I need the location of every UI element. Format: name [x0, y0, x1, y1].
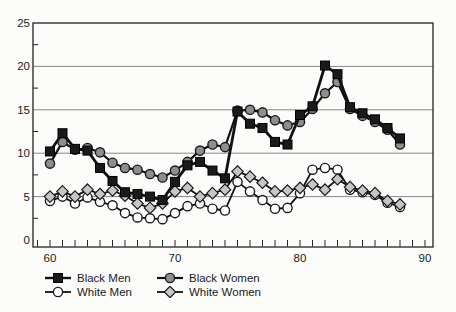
y-tick-label: 10 [17, 147, 30, 159]
data-point-white-women [282, 185, 293, 196]
data-point-white-men [233, 177, 242, 186]
data-point-white-men [183, 202, 192, 211]
data-point-white-women [144, 202, 155, 213]
data-point-white-men [145, 214, 154, 223]
data-point-white-women [82, 184, 93, 195]
data-point-black-men [133, 189, 142, 198]
x-tick-label: 70 [169, 252, 182, 264]
data-point-black-men [321, 61, 330, 70]
data-point-white-men [158, 215, 167, 224]
data-point-black-women [245, 105, 254, 114]
y-tick-label: 15 [17, 104, 30, 116]
unemployment-rate-line-chart: 051015202560708090 [0, 0, 456, 312]
data-point-black-men [396, 134, 405, 143]
data-point-black-men [221, 174, 230, 183]
data-point-white-women [232, 166, 243, 177]
data-point-black-women [170, 166, 179, 175]
x-tick-label: 60 [44, 252, 57, 264]
data-point-black-men [333, 70, 342, 79]
data-point-white-women [94, 188, 105, 199]
data-point-black-men [183, 161, 192, 170]
data-point-white-men [283, 203, 292, 212]
data-point-black-women [195, 146, 204, 155]
data-point-white-men [220, 206, 229, 215]
data-point-white-women [219, 184, 230, 195]
data-point-black-men [158, 196, 167, 205]
data-point-black-women [108, 158, 117, 167]
y-tick-label: 20 [17, 60, 30, 72]
data-point-black-women [158, 173, 167, 182]
data-point-white-men [320, 163, 329, 172]
data-point-black-men [171, 177, 180, 186]
data-point-black-women [208, 140, 217, 149]
y-tick-label: 0 [24, 234, 30, 246]
data-point-black-women [133, 165, 142, 174]
data-point-black-men [108, 176, 117, 185]
data-point-white-women [182, 182, 193, 193]
chart-figure: 051015202560708090 Black Men Black Women… [0, 0, 456, 312]
data-point-black-men [308, 102, 317, 111]
data-point-white-women [257, 177, 268, 188]
data-point-black-men [96, 163, 105, 172]
data-point-white-women [307, 179, 318, 190]
data-point-black-women [145, 169, 154, 178]
data-point-black-women [283, 121, 292, 130]
data-point-black-men [283, 140, 292, 149]
data-point-black-men [83, 146, 92, 155]
data-point-white-men [245, 187, 254, 196]
data-point-black-men [346, 103, 355, 112]
data-point-black-men [58, 129, 67, 138]
data-point-black-men [271, 137, 280, 146]
data-point-white-women [107, 185, 118, 196]
data-point-white-men [308, 165, 317, 174]
data-point-white-men [120, 208, 129, 217]
data-point-white-men [133, 213, 142, 222]
data-point-white-women [269, 186, 280, 197]
y-tick-label: 5 [24, 191, 30, 203]
data-point-white-women [132, 198, 143, 209]
x-tick-label: 90 [419, 252, 432, 264]
data-point-black-men [233, 107, 242, 116]
data-point-black-men [121, 188, 130, 197]
data-point-white-women [207, 187, 218, 198]
data-point-black-men [246, 119, 255, 128]
data-point-black-women [258, 108, 267, 117]
data-point-white-men [208, 204, 217, 213]
data-point-white-women [244, 171, 255, 182]
data-point-black-men [383, 124, 392, 133]
data-point-black-women [120, 163, 129, 172]
data-point-black-men [196, 157, 205, 166]
data-point-black-women [220, 143, 229, 152]
data-point-white-men [170, 208, 179, 217]
data-point-black-men [296, 111, 305, 120]
data-point-black-men [46, 147, 55, 156]
data-point-black-women [95, 148, 104, 157]
data-point-black-men [71, 144, 80, 153]
data-point-white-men [270, 204, 279, 213]
data-point-black-women [320, 89, 329, 98]
x-tick-label: 80 [294, 252, 307, 264]
data-point-black-men [358, 109, 367, 118]
data-point-black-men [371, 115, 380, 124]
data-point-white-men [258, 195, 267, 204]
data-point-black-men [146, 192, 155, 201]
y-tick-label: 25 [17, 17, 30, 29]
data-point-black-women [45, 159, 54, 168]
data-point-white-men [108, 201, 117, 210]
data-point-black-men [208, 166, 217, 175]
data-point-black-men [258, 124, 267, 133]
data-point-black-women [270, 116, 279, 125]
